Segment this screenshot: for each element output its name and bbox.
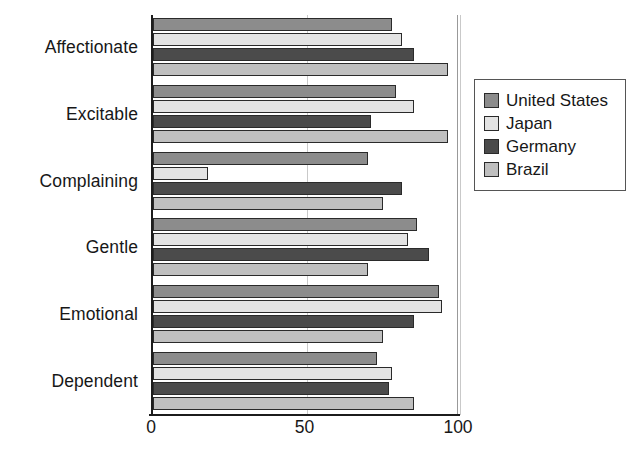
bar-group xyxy=(153,82,457,149)
bar xyxy=(153,48,414,61)
plot-area xyxy=(151,15,458,415)
bar xyxy=(153,233,408,246)
bar xyxy=(153,285,439,298)
bar xyxy=(153,100,414,113)
bar xyxy=(153,218,417,231)
bar xyxy=(153,115,371,128)
category-label-dependent: Dependent xyxy=(51,373,138,391)
legend-item[interactable]: Germany xyxy=(484,135,615,158)
bar-group xyxy=(153,348,457,415)
bar-group xyxy=(153,148,457,215)
legend-item[interactable]: United States xyxy=(484,89,615,112)
x-axis-line xyxy=(149,414,460,416)
bar xyxy=(153,352,377,365)
gridline-100 xyxy=(460,15,461,415)
bar xyxy=(153,397,414,410)
legend-swatch-icon xyxy=(484,139,499,154)
bar xyxy=(153,33,402,46)
legend-swatch-icon xyxy=(484,116,499,131)
bar xyxy=(153,300,442,313)
legend-label: Brazil xyxy=(506,161,549,178)
bar xyxy=(153,248,429,261)
category-label-complaining: Complaining xyxy=(40,173,138,191)
bar xyxy=(153,167,208,180)
legend-item[interactable]: Japan xyxy=(484,112,615,135)
category-label-emotional: Emotional xyxy=(59,306,138,324)
bar xyxy=(153,330,383,343)
category-label-excitable: Excitable xyxy=(66,106,138,124)
legend-swatch-icon xyxy=(484,93,499,108)
bar-group xyxy=(153,282,457,349)
bar xyxy=(153,85,396,98)
legend-item[interactable]: Brazil xyxy=(484,158,615,181)
chart-legend: United StatesJapanGermanyBrazil xyxy=(474,79,626,191)
bar xyxy=(153,18,392,31)
bar xyxy=(153,315,414,328)
category-label-affectionate: Affectionate xyxy=(45,39,138,57)
legend-label: Japan xyxy=(506,115,552,132)
bar xyxy=(153,367,392,380)
bar xyxy=(153,63,448,76)
bar-group xyxy=(153,15,457,82)
bar xyxy=(153,152,368,165)
bar xyxy=(153,263,368,276)
legend-label: United States xyxy=(506,92,608,109)
bar xyxy=(153,130,448,143)
bar-group xyxy=(153,215,457,282)
legend-swatch-icon xyxy=(484,162,499,177)
bar-chart: AffectionateExcitableComplainingGentleEm… xyxy=(0,0,636,454)
y-axis-category-labels: AffectionateExcitableComplainingGentleEm… xyxy=(0,15,144,415)
category-label-gentle: Gentle xyxy=(86,239,138,257)
bar xyxy=(153,197,383,210)
x-tick-label-50: 50 xyxy=(295,419,314,437)
bar xyxy=(153,182,402,195)
x-tick-label-100: 100 xyxy=(443,419,472,437)
bar xyxy=(153,382,389,395)
x-tick-label-0: 0 xyxy=(146,419,156,437)
legend-label: Germany xyxy=(506,138,576,155)
x-axis-tick-labels: 050100 xyxy=(0,419,636,449)
